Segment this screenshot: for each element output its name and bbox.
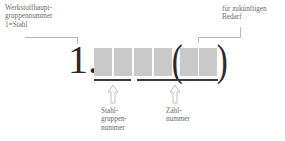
digit-box-6 bbox=[199, 48, 217, 76]
up-arrow-icon bbox=[107, 84, 119, 104]
close-parenthesis: ) bbox=[217, 39, 228, 83]
count-number-underline bbox=[137, 79, 218, 81]
digit-box-1 bbox=[94, 48, 112, 76]
open-parenthesis: ( bbox=[172, 39, 183, 83]
count-number-label: Zähl- nummer bbox=[166, 107, 190, 124]
digit-box-4 bbox=[154, 48, 172, 76]
digit-box-3 bbox=[134, 48, 152, 76]
up-arrow-icon bbox=[169, 84, 181, 104]
main-group-label: Werkstoffhaupt- gruppennummer 1=Stahl bbox=[5, 4, 53, 29]
steel-group-underline bbox=[94, 79, 131, 81]
future-use-label: für zukünftigen Bedarf bbox=[222, 5, 267, 22]
future-use-callout-line-drop bbox=[198, 37, 199, 43]
steel-group-label: Stahl- gruppen- nummer bbox=[101, 107, 127, 132]
digit-box-2 bbox=[114, 48, 132, 76]
